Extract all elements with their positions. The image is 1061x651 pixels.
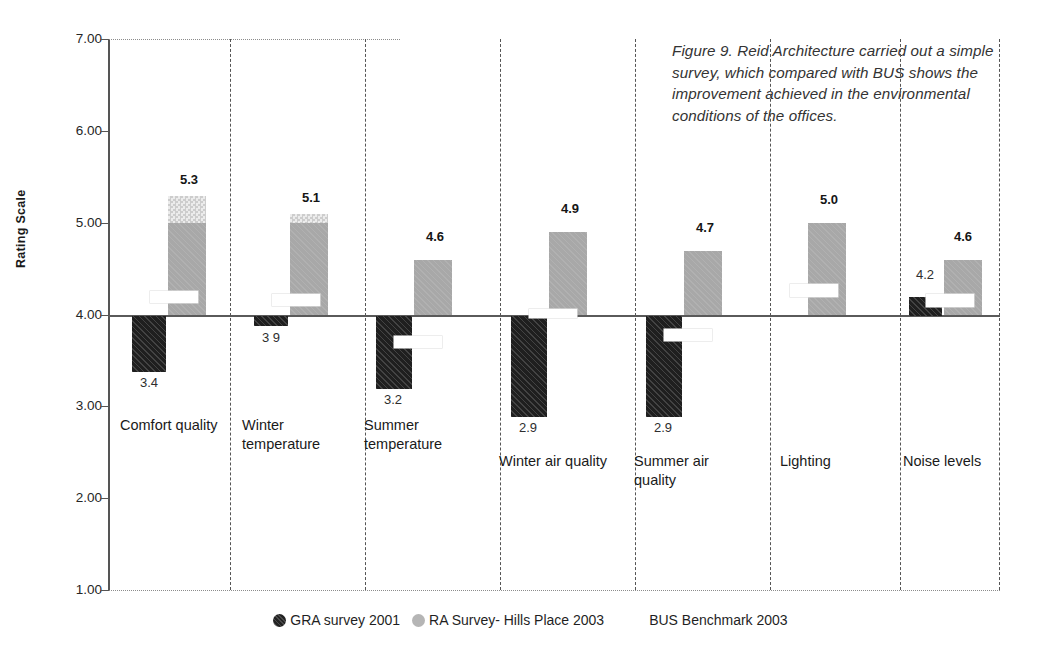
y-tick-1 — [101, 590, 109, 591]
category-divider-3 — [500, 39, 501, 590]
category-divider-1 — [230, 39, 231, 590]
y-tick-label-6: 6.00 — [46, 123, 102, 138]
value-label-ra-lighting: 5.0 — [794, 192, 864, 207]
y-tick-6 — [101, 131, 109, 132]
gridline-1 — [108, 590, 1000, 591]
y-tick-4 — [101, 315, 109, 316]
bar-ra-summer-air-quality — [684, 251, 722, 315]
value-label-ra-winter-temperature: 5.1 — [276, 190, 346, 205]
legend-dark-circle-icon — [273, 614, 286, 627]
y-tick-label-5: 5.00 — [46, 215, 102, 230]
bus-marker-noise-levels — [926, 294, 974, 307]
category-divider-2 — [365, 39, 366, 590]
bus-marker-winter-temperature — [272, 294, 320, 306]
y-tick-3 — [101, 406, 109, 407]
value-label-ra-noise-levels: 4.6 — [928, 229, 998, 244]
y-tick-7 — [101, 39, 109, 40]
value-label-ra-summer-temperature: 4.6 — [400, 229, 470, 244]
y-axis-title: Rating Scale — [14, 189, 28, 268]
bus-marker-summer-air-quality — [664, 329, 712, 341]
legend-item-gra-survey: GRA survey 2001 — [273, 612, 400, 628]
y-tick-label-1: 1.00 — [46, 582, 102, 597]
category-label-winter-temperature: Winter temperature — [242, 416, 366, 454]
bar-gra-comfort-quality — [132, 316, 166, 372]
value-label-gra-noise-levels: 4.2 — [890, 267, 960, 282]
bar-ra-summer-temperature — [414, 260, 452, 315]
legend-label-bus-benchmark: BUS Benchmark 2003 — [649, 612, 788, 628]
category-label-summer-air-quality: Summer air quality — [634, 452, 744, 490]
value-label-ra-comfort-quality: 5.3 — [154, 172, 224, 187]
bar-gra-summer-temperature — [376, 316, 412, 389]
legend-white-bar-icon — [632, 614, 645, 627]
value-label-gra-winter-temperature: 3 9 — [236, 330, 306, 345]
category-divider-4 — [635, 39, 636, 590]
category-label-summer-temperature: Summer temperature — [364, 416, 494, 454]
bus-marker-winter-air-quality — [529, 309, 577, 318]
category-label-winter-air-quality: Winter air quality — [499, 452, 609, 471]
value-label-gra-summer-temperature: 3.2 — [358, 392, 428, 407]
bar-ra-winter-air-quality — [549, 232, 587, 315]
category-label-lighting: Lighting — [780, 452, 890, 471]
y-tick-label-7: 7.00 — [46, 31, 102, 46]
bus-marker-lighting — [790, 284, 838, 297]
legend-label-ra-survey: RA Survey- Hills Place 2003 — [429, 612, 604, 628]
bar-ra-lighting — [808, 223, 846, 315]
bar-ra-winter-temperature-overflow — [290, 214, 328, 223]
category-divider-5 — [770, 39, 771, 590]
legend-gray-circle-icon — [412, 614, 425, 627]
category-divider-6 — [900, 39, 901, 590]
y-tick-label-2: 2.00 — [46, 490, 102, 505]
y-tick-5 — [101, 223, 109, 224]
bar-gra-winter-air-quality — [511, 316, 547, 417]
bar-ra-comfort-quality-overflow — [168, 196, 206, 223]
plot-right-edge — [999, 39, 1000, 590]
bar-gra-winter-temperature — [254, 316, 288, 326]
bus-marker-summer-temperature — [394, 336, 442, 348]
plot-area: 5.3 3.4 Comfort quality 5.1 3 9 Winter t… — [108, 39, 1000, 590]
legend-item-ra-survey: RA Survey- Hills Place 2003 — [412, 612, 604, 628]
chart-legend: GRA survey 2001 RA Survey- Hills Place 2… — [0, 612, 1061, 628]
y-tick-2 — [101, 498, 109, 499]
value-label-gra-summer-air-quality: 2.9 — [628, 420, 698, 435]
bus-marker-comfort-quality — [150, 291, 198, 303]
y-tick-label-3: 3.00 — [46, 398, 102, 413]
category-label-noise-levels: Noise levels — [903, 452, 1013, 471]
value-label-ra-winter-air-quality: 4.9 — [535, 201, 605, 216]
value-label-ra-summer-air-quality: 4.7 — [670, 220, 740, 235]
legend-item-bus-benchmark: BUS Benchmark 2003 — [632, 612, 788, 628]
gridline-7 — [108, 39, 400, 40]
value-label-gra-comfort-quality: 3.4 — [114, 375, 184, 390]
legend-label-gra-survey: GRA survey 2001 — [290, 612, 400, 628]
value-label-gra-winter-air-quality: 2.9 — [493, 420, 563, 435]
category-label-comfort-quality: Comfort quality — [120, 416, 230, 435]
figure-9-chart: Figure 9. Reid Architecture carried out … — [0, 0, 1061, 651]
y-tick-label-4: 4.00 — [46, 307, 102, 322]
